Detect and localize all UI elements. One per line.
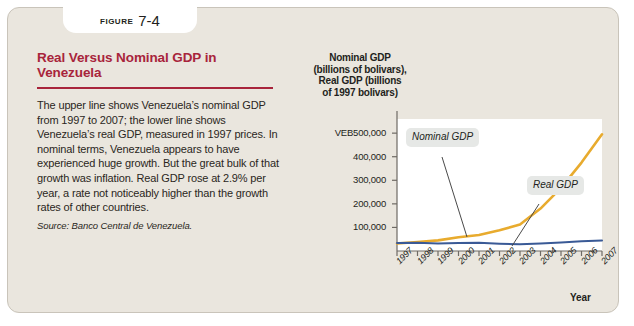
annotation-nominal-gdp: Nominal GDP xyxy=(406,128,479,147)
figure-label: FIGURE xyxy=(100,14,133,26)
figure-number-tab: FIGURE 7-4 xyxy=(63,7,197,33)
figure-number: 7-4 xyxy=(138,12,160,29)
y-axis-tick-1: 400,000 xyxy=(276,151,394,162)
x-axis-title: Year xyxy=(570,292,591,303)
figure-card: FIGURE 7-4 Real Versus Nominal GDP in Ve… xyxy=(7,7,619,313)
figure-body-text: The upper line shows Venezuela’s nominal… xyxy=(37,98,281,215)
y-axis-tick-4: 100,000 xyxy=(276,221,394,232)
plot-area: VEB500,000400,000300,000200,000100,000 1… xyxy=(284,24,616,308)
annotation-real-gdp: Real GDP xyxy=(527,176,584,195)
title-divider xyxy=(37,87,273,89)
y-axis-tick-2: 300,000 xyxy=(276,174,394,185)
y-axis-tick-3: 200,000 xyxy=(276,198,394,209)
figure-source: Source: Banco Central de Venezuela. xyxy=(37,220,281,231)
y-axis-tick-labels: VEB500,000400,000300,000200,000100,000 xyxy=(284,24,394,308)
annotation-real-gdp-line-1: Real GDP xyxy=(533,179,578,191)
figure-title: Real Versus Nominal GDP in Venezuela xyxy=(37,50,281,80)
annotation-nominal-gdp-line-1: Nominal GDP xyxy=(412,131,473,143)
caption-column: Real Versus Nominal GDP in Venezuela The… xyxy=(37,50,281,231)
chart: Nominal GDP (billions of bolivars), Real… xyxy=(284,24,616,308)
y-axis-tick-0: VEB500,000 xyxy=(276,127,394,138)
